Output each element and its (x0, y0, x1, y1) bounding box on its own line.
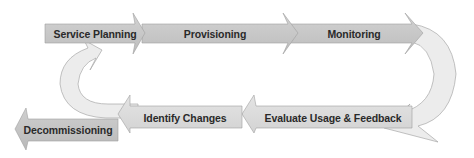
label-provisioning: Provisioning (184, 28, 246, 40)
label-service-planning: Service Planning (53, 28, 136, 40)
label-evaluate-usage: Evaluate Usage & Feedback (265, 112, 402, 124)
lifecycle-diagram: Service Planning Provisioning Monitoring… (0, 0, 474, 158)
label-monitoring: Monitoring (327, 28, 380, 40)
label-decommissioning: Decommissioning (24, 124, 113, 136)
label-identify-changes: Identify Changes (144, 112, 227, 124)
